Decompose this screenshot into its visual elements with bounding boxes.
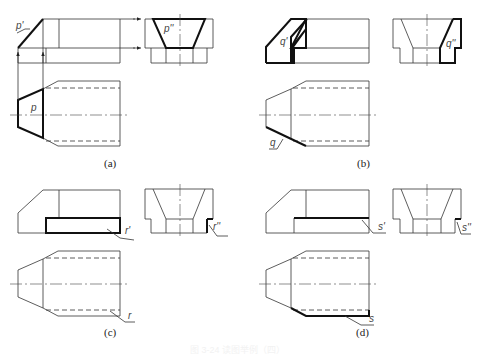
panel-b-top-view: [259, 81, 376, 149]
panel-a-top-view: [10, 52, 128, 146]
panel-c-caption: (c): [104, 326, 117, 339]
panel-d-top-view: [259, 251, 376, 325]
label-r: r: [128, 310, 132, 321]
panel-c-front-view: [18, 190, 134, 240]
panel-c-top-view: [10, 251, 135, 322]
panel-a: p' p'' p (a): [10, 14, 213, 170]
label-s-double-prime: s'': [462, 222, 472, 233]
label-s-prime: s': [378, 221, 386, 232]
label-p: p: [30, 102, 37, 113]
label-q-prime: q': [280, 36, 289, 47]
panel-b-caption: (b): [357, 157, 370, 170]
panel-b-front-view: [291, 19, 369, 63]
label-p-double-prime: p'': [163, 23, 174, 34]
label-q: q: [270, 137, 276, 148]
label-r-double-prime: r'': [213, 221, 221, 232]
label-q-double-prime: q'': [446, 38, 456, 49]
panel-a-side-view: [145, 14, 213, 68]
panel-b: q' q'' q (b): [259, 14, 461, 170]
panel-a-front-view: [17, 19, 141, 63]
panel-c: r' r'': [10, 184, 228, 339]
label-p-prime: p': [15, 20, 25, 31]
orthographic-drawing-sheet: p' p'' p (a): [0, 0, 485, 357]
panel-d-front-view: [266, 190, 386, 233]
panel-d-side-view: [393, 184, 471, 238]
figure-caption: 图 3-24 读图举例（四）: [190, 344, 285, 355]
panel-a-caption: (a): [104, 157, 117, 170]
label-r-prime: r': [125, 225, 131, 236]
panel-d-caption: (d): [356, 326, 369, 339]
panel-d: s' s'': [259, 184, 472, 339]
label-s: s: [369, 313, 374, 324]
